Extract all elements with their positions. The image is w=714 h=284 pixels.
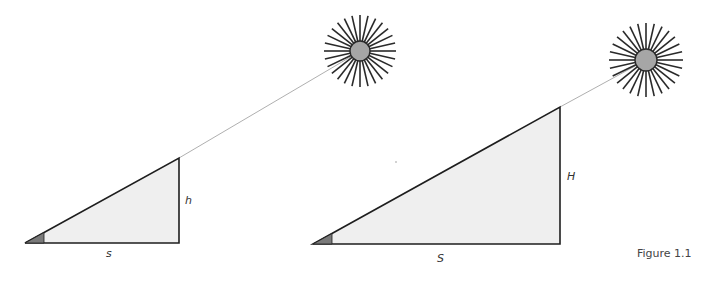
large-triangle [313,107,560,244]
height-label-large: H [567,170,575,183]
sun-icon [609,23,683,97]
stray-dot [395,161,397,163]
sight-line [179,56,352,158]
small-triangle-diagram [25,15,396,243]
sun-icon [324,15,396,87]
height-label-small: h [185,194,192,207]
small-triangle [25,158,179,243]
base-label-small: s [106,247,112,260]
angle-marker-icon [25,233,44,244]
base-label-large: S [437,252,444,265]
angle-marker-icon [313,234,332,245]
figure-caption: Figure 1.1 [637,247,692,260]
figure-canvas [0,0,714,284]
